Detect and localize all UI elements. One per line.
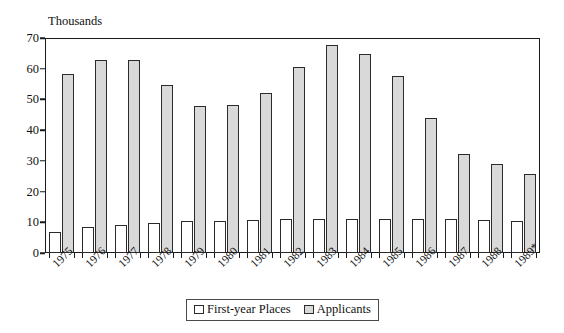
bar-group [313, 38, 339, 253]
bar-first-year-places [181, 221, 194, 253]
bar-first-year-places [346, 219, 359, 253]
bar-group [346, 38, 372, 253]
bar-first-year-places [280, 219, 293, 253]
bar-applicants [359, 54, 372, 253]
bar-first-year-places [511, 221, 524, 253]
bar-applicants [260, 93, 273, 253]
x-axis-tick-mark [379, 253, 380, 258]
y-axis-tick-label: 70 [27, 31, 40, 46]
x-axis-tick-mark [181, 253, 182, 258]
chart-legend: First-year PlacesApplicants [186, 299, 379, 321]
bar-applicants [194, 106, 207, 253]
legend-swatch-applicants [304, 305, 314, 314]
bar-first-year-places [247, 220, 260, 253]
y-axis-tick-label: 60 [27, 61, 40, 76]
bar-group [181, 38, 207, 253]
bar-group [280, 38, 306, 253]
bar-applicants [326, 45, 339, 253]
bar-group [478, 38, 504, 253]
bar-applicants [128, 60, 141, 253]
bar-first-year-places [82, 227, 95, 253]
x-axis-tick-mark [445, 253, 446, 258]
y-axis-tick-label: 40 [27, 123, 40, 138]
bar-first-year-places [379, 219, 392, 253]
bar-first-year-places [214, 221, 227, 253]
bar-group [445, 38, 471, 253]
bar-group [511, 38, 537, 253]
legend-label: First-year Places [207, 302, 291, 317]
bar-applicants [458, 154, 471, 253]
x-axis-tick-mark [338, 253, 339, 258]
legend-item: Applicants [304, 302, 371, 317]
x-axis-tick-mark [49, 253, 50, 258]
x-axis-tick-mark [214, 253, 215, 258]
bar-group [412, 38, 438, 253]
x-axis-tick-mark [107, 253, 108, 258]
x-axis-tick-mark [371, 253, 372, 258]
bar-applicants [392, 76, 405, 253]
x-axis-tick-mark [503, 253, 504, 258]
x-axis-tick-mark [346, 253, 347, 258]
bar-group [247, 38, 273, 253]
chart-page: Thousands 010203040506070 19751976197719… [0, 0, 564, 333]
bars-layer [45, 38, 540, 253]
bar-group [214, 38, 240, 253]
bar-applicants [425, 118, 438, 253]
bar-applicants [62, 74, 75, 253]
legend-item: First-year Places [194, 302, 291, 317]
bar-group [115, 38, 141, 253]
x-axis-tick-mark [470, 253, 471, 258]
legend-label: Applicants [317, 302, 371, 317]
bar-group [49, 38, 75, 253]
bar-applicants [293, 67, 306, 253]
bar-applicants [227, 105, 240, 253]
x-axis-tick-mark [74, 253, 75, 258]
bar-first-year-places [115, 225, 128, 253]
bar-group [82, 38, 108, 253]
bar-group [379, 38, 405, 253]
x-axis-tick-mark [280, 253, 281, 258]
x-axis-tick-mark [313, 253, 314, 258]
x-axis-tick-mark [437, 253, 438, 258]
x-axis-tick-mark [247, 253, 248, 258]
legend-swatch-first-year-places [194, 305, 204, 314]
x-axis-tick-mark [206, 253, 207, 258]
bar-first-year-places [478, 220, 491, 253]
x-axis-tick-mark [173, 253, 174, 258]
y-axis-tick-label: 50 [27, 92, 40, 107]
x-axis-tick-mark [536, 253, 537, 258]
x-axis: 1975197619771978197919801981198219831984… [45, 253, 540, 303]
bar-first-year-places [313, 219, 326, 253]
x-axis-tick-mark [478, 253, 479, 258]
x-axis-tick-mark [404, 253, 405, 258]
x-axis-tick-mark [140, 253, 141, 258]
bar-first-year-places [412, 219, 425, 253]
x-axis-tick-mark [305, 253, 306, 258]
y-axis-unit-title: Thousands [48, 14, 102, 29]
bar-first-year-places [148, 223, 161, 253]
x-axis-tick-mark [412, 253, 413, 258]
x-axis-tick-mark [239, 253, 240, 258]
x-axis-tick-mark [115, 253, 116, 258]
bar-applicants [491, 164, 504, 253]
x-axis-tick-mark [148, 253, 149, 258]
y-axis-tick-label: 10 [27, 215, 40, 230]
bar-first-year-places [445, 219, 458, 253]
x-axis-tick-mark [511, 253, 512, 258]
x-axis-tick-mark [82, 253, 83, 258]
bar-group [148, 38, 174, 253]
y-axis-tick-label: 30 [27, 153, 40, 168]
y-axis: 010203040506070 [0, 30, 45, 261]
bar-applicants [95, 60, 108, 253]
x-axis-tick-mark [272, 253, 273, 258]
y-axis-tick-label: 0 [33, 246, 39, 261]
bar-applicants [161, 85, 174, 253]
y-axis-tick-label: 20 [27, 184, 40, 199]
